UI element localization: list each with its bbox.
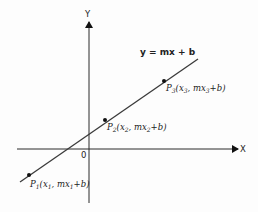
x-axis-label: X [240, 144, 246, 154]
point-p2-label: P2(x2, mx2+b) [106, 122, 167, 133]
point-p3-label: P3(x3, mx3+b) [165, 83, 226, 94]
equation-label: y = mx + b [140, 47, 196, 57]
origin-label: 0 [81, 150, 86, 160]
point-p1-marker [27, 173, 31, 177]
graph-line [20, 59, 198, 182]
point-p1-label: P1(x1, mx1+b) [29, 179, 90, 190]
line-diagram: X Y 0 y = mx + b P1(x1, mx1+b) P2(x2, mx… [0, 0, 258, 212]
y-axis-label: Y [84, 9, 91, 19]
